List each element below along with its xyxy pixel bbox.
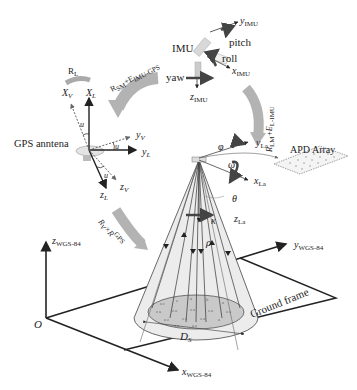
y-imu-axis bbox=[210, 22, 238, 32]
ground-frame-label: Ground frame bbox=[248, 285, 310, 319]
zl-axis bbox=[89, 150, 106, 188]
lidar-coordinate-diagram: a εzaba z az az az az a a zz az aa z aa … bbox=[0, 0, 357, 390]
zv-label: zV bbox=[119, 181, 129, 194]
yl-label: yL bbox=[141, 146, 150, 159]
theta-label: θ bbox=[232, 193, 237, 204]
xl-label: XL bbox=[85, 87, 96, 100]
omega-label: ω bbox=[228, 159, 235, 170]
z-la-label: zLa bbox=[233, 213, 246, 226]
u-angle-label: u bbox=[80, 120, 84, 129]
svg-text:a ε: a ε bbox=[160, 301, 165, 306]
svg-text:a: a bbox=[222, 300, 224, 305]
yaw-label: yaw bbox=[166, 71, 184, 83]
apd-array-label: APD Array bbox=[290, 144, 335, 155]
y-imu-label: yIMU bbox=[239, 15, 258, 28]
phi-label: φ bbox=[218, 141, 224, 152]
x-wgs84-label: xWGS-84 bbox=[181, 366, 212, 379]
zl-label: zL bbox=[99, 189, 108, 202]
gps-antenna-label: GPS anntena bbox=[14, 138, 69, 149]
laser-cone: a εzaba z az az az az a a zz az aa z aa … bbox=[134, 160, 258, 350]
rl-label: RL bbox=[68, 66, 78, 78]
x-imu-label: xIMU bbox=[231, 65, 250, 78]
svg-text:z a: z a bbox=[200, 316, 205, 321]
roll-label: roll bbox=[222, 52, 237, 64]
svg-text:z: z bbox=[176, 298, 178, 303]
svg-text:z a: z a bbox=[190, 307, 195, 312]
x-la-label: xLa bbox=[253, 175, 267, 188]
u-angle-label: u bbox=[115, 142, 119, 151]
svg-text:z a: z a bbox=[156, 309, 161, 314]
pitch-arrow bbox=[221, 29, 226, 36]
svg-text:z a: z a bbox=[182, 316, 187, 321]
z-imu-label: zIMU bbox=[189, 91, 208, 104]
kappa-label: κ bbox=[211, 215, 216, 226]
x-la-axis bbox=[199, 160, 248, 180]
xv-label: XV bbox=[61, 87, 73, 100]
svg-text:a: a bbox=[218, 317, 220, 322]
y-wgs84-label: yWGS-84 bbox=[293, 239, 324, 252]
u-angle-label: u bbox=[104, 171, 108, 180]
pitch-label: pitch bbox=[229, 36, 251, 48]
svg-text:z a: z a bbox=[172, 308, 177, 313]
svg-text:a z: a z bbox=[164, 317, 169, 322]
imu-label: IMU bbox=[172, 42, 193, 54]
origin-label: O bbox=[34, 318, 42, 330]
svg-text:z a: z a bbox=[226, 309, 231, 314]
rl-arc bbox=[66, 79, 90, 83]
rho-label: ρ bbox=[205, 236, 211, 248]
svg-text:a z: a z bbox=[192, 323, 197, 328]
svg-text:a: a bbox=[190, 296, 192, 301]
z-wgs84-label: zWGS-84 bbox=[51, 235, 81, 248]
yv-label: yV bbox=[135, 129, 145, 142]
rlm-arrow bbox=[246, 88, 259, 136]
svg-text:z a: z a bbox=[208, 308, 213, 313]
